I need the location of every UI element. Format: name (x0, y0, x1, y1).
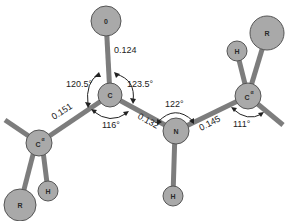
angle-arc-n-ca-c (233, 109, 262, 117)
atom-nitrogen-label: N (173, 128, 178, 135)
bond-angle-c-n-ca: 122° (165, 99, 184, 109)
atom-oxygen: 0 (91, 6, 121, 36)
arrowhead (258, 112, 264, 117)
atom-hydrogen-right-label: H (234, 48, 239, 55)
atom-hydrogen-n: H (163, 186, 183, 206)
bond-angle-ca-c-n: 116° (102, 120, 120, 130)
arrowhead (94, 72, 101, 77)
atom-calpha-left: C α (26, 130, 52, 156)
atom-r-left-label: R (17, 202, 22, 209)
atom-oxygen-label: 0 (104, 18, 108, 25)
atom-r-left: R (4, 189, 36, 221)
atom-hydrogen-left-label: H (45, 188, 50, 195)
atom-r-right: R (250, 16, 284, 50)
angle-arc-ca-c-n (93, 111, 127, 119)
atom-carbonyl-carbon-label: C (107, 92, 112, 99)
bond-length-ca-c: 0.151 (50, 101, 74, 122)
bond-angle-n-ca-c: 111° (233, 119, 251, 129)
bond-length-c-o: 0.124 (114, 45, 137, 55)
atom-calpha-left-label: C (35, 141, 40, 148)
atom-hydrogen-n-label: H (170, 193, 175, 200)
atom-carbonyl-carbon: C (98, 83, 122, 107)
atom-calpha-right: C α (235, 83, 261, 109)
atom-hydrogen-right: H (227, 41, 247, 61)
arrowhead (130, 98, 136, 104)
atom-hydrogen-left: H (38, 181, 58, 201)
bond-angle-o-c-ca: 120.5° (66, 79, 93, 89)
atom-r-right-label: R (264, 30, 269, 37)
bond-angle-o-c-n: 123.5° (127, 79, 154, 89)
peptide-diagram: 0 C N C α C α H R H H R (0, 0, 287, 221)
atom-nitrogen: N (163, 118, 189, 144)
atom-calpha-right-label: C (244, 94, 249, 101)
